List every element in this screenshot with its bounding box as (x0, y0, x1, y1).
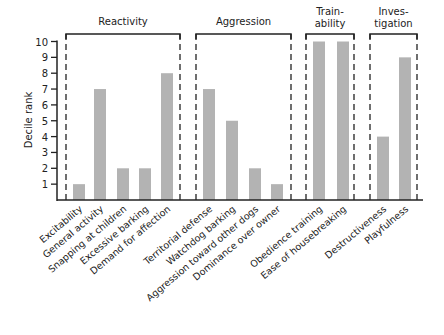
y-axis: 12345678910 (35, 37, 57, 202)
y-tick-label: 4 (42, 132, 48, 143)
y-axis-label: Decile rank (23, 91, 34, 148)
group-label: Reactivity (98, 16, 148, 27)
bar (399, 57, 411, 200)
bar (161, 73, 173, 200)
bars (73, 42, 411, 201)
y-tick-label: 9 (42, 52, 48, 63)
bar (271, 184, 283, 200)
bar (139, 168, 151, 200)
y-tick-label: 1 (42, 179, 48, 190)
group-bracket (306, 34, 354, 39)
bar (203, 89, 215, 200)
y-tick-label: 10 (35, 37, 48, 48)
bar (337, 42, 349, 201)
bar (226, 121, 238, 200)
group-bracket (196, 34, 291, 39)
bar (73, 184, 85, 200)
y-tick-label: 2 (42, 163, 48, 174)
y-tick-label: 3 (42, 147, 48, 158)
group-bracket (66, 34, 180, 39)
group-label: tigation (374, 18, 412, 29)
bar (117, 168, 129, 200)
y-tick-label: 5 (42, 116, 48, 127)
bar (249, 168, 261, 200)
bar (94, 89, 106, 200)
y-tick-label: 8 (42, 68, 48, 79)
bar (377, 137, 389, 200)
y-tick-label: 6 (42, 100, 48, 111)
bar (313, 42, 325, 201)
x-tick-labels: ExcitabilityGeneral activitySnapping at … (37, 203, 410, 303)
bar-chart: 12345678910 Decile rank ReactivityAggres… (0, 0, 444, 335)
group-label: Train- (315, 6, 344, 17)
group-label: Aggression (216, 16, 271, 27)
group-label: ability (315, 18, 346, 29)
group-label: Inves- (378, 6, 409, 17)
group-bracket (370, 34, 417, 39)
y-tick-label: 7 (42, 84, 48, 95)
